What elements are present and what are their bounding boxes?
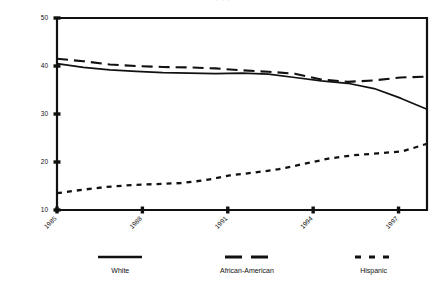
y-tick-label-20: 20 (41, 158, 49, 165)
x-tick-label-1991: 1991 (213, 214, 228, 229)
x-tick-label-1994: 1994 (299, 214, 314, 229)
legend-swatch-white (97, 252, 143, 262)
series-line-hispanic (57, 144, 427, 193)
legend-label-african-american: African-American (220, 267, 274, 274)
legend-swatch-african-american (224, 252, 270, 262)
data-series (57, 59, 427, 193)
axes (57, 18, 427, 210)
chart-legend: White African-American Hispanic (57, 252, 437, 286)
legend-label-hispanic: Hispanic (360, 267, 387, 274)
legend-item-african-american: African-American (184, 252, 311, 274)
chart-figure: . . . Percentage of U.S. Welfare Recipie… (0, 0, 446, 300)
y-tick-label-10: 10 (41, 206, 49, 213)
x-tick-label-1997: 1997 (384, 214, 399, 229)
axis-frame (57, 18, 427, 210)
legend-item-white: White (57, 252, 184, 274)
legend-item-hispanic: Hispanic (310, 252, 437, 274)
x-tick-label-1985: 1985 (43, 214, 58, 229)
legend-swatch-hispanic (351, 252, 397, 262)
y-tick-label-50: 50 (41, 14, 49, 21)
y-tick-label-30: 30 (41, 110, 49, 117)
x-tick-label-1988: 1988 (128, 214, 143, 229)
legend-label-white: White (111, 267, 129, 274)
series-line-white (57, 64, 427, 110)
y-tick-label-40: 40 (41, 62, 49, 69)
